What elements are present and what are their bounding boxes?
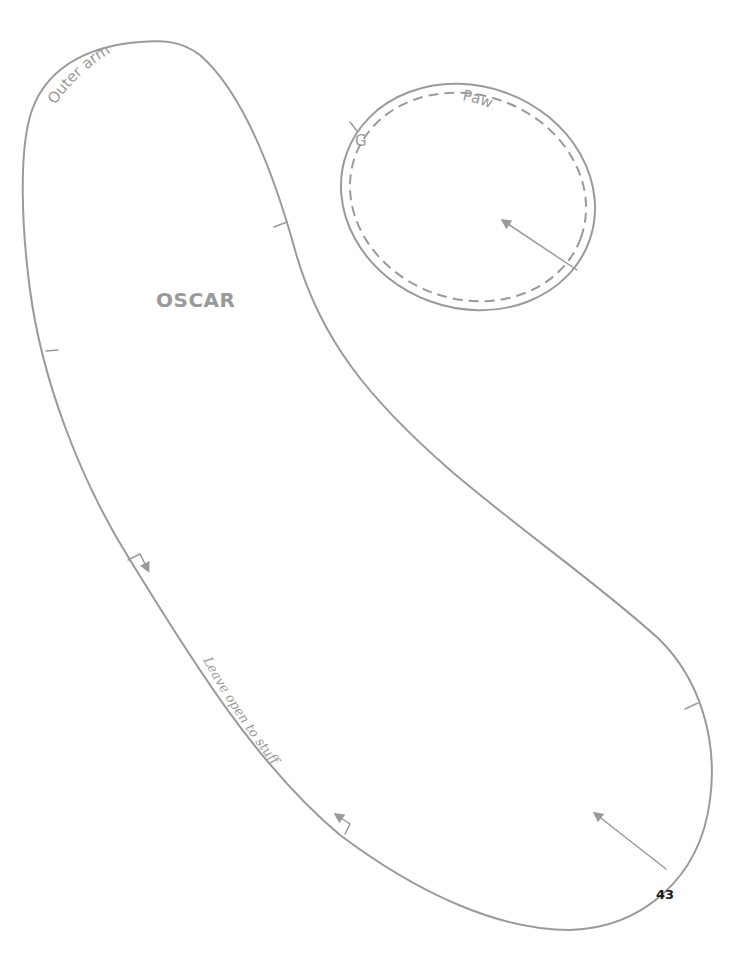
leave-open-instruction: Leave open to stuff: [200, 653, 284, 769]
paw-grainline-arrow: [505, 222, 577, 270]
pattern-page: Outer arm Paw G Leave open to stuff OSCA…: [0, 0, 749, 978]
opening-end-marker: [338, 816, 350, 834]
notch-mark: [274, 222, 287, 227]
piece-title: OSCAR: [156, 288, 235, 312]
outer-arm-outline: [23, 41, 712, 930]
notch-mark: [685, 703, 698, 709]
paw-notch: [350, 122, 357, 131]
paw-marker-g: G: [355, 132, 367, 150]
notch-mark: [46, 350, 58, 351]
paw-label: Paw: [461, 86, 495, 112]
grainline-arrow: [597, 815, 666, 869]
page-number: 43: [656, 887, 674, 902]
pattern-drawing: Outer arm Paw G Leave open to stuff: [0, 0, 749, 978]
